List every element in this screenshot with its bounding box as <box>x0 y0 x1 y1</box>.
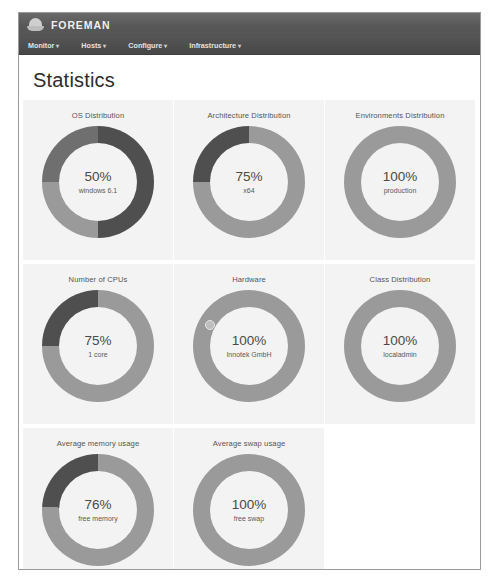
donut-ring: 100% localadmin <box>344 290 456 402</box>
donut-label: 1 core <box>84 351 111 358</box>
main-navbar: Monitor▾ Hosts▾ Configure▾ Infrastructur… <box>19 36 480 55</box>
nav-item-configure[interactable]: Configure▾ <box>128 41 167 50</box>
chart-title: Hardware <box>232 275 266 284</box>
brand-title: FOREMAN <box>51 19 110 31</box>
donut-center: 76% free memory <box>59 471 137 549</box>
chart-card-class-distribution[interactable]: Class Distribution 100% localadmin <box>325 264 476 424</box>
chart-title: Average swap usage <box>213 439 286 448</box>
foreman-app-window: FOREMAN Monitor▾ Hosts▾ Configure▾ Infra… <box>18 12 481 570</box>
donut-ring: 100% free swap <box>193 454 305 566</box>
donut-label: x64 <box>239 187 258 194</box>
brand-bar: FOREMAN <box>19 13 480 36</box>
chart-title: Number of CPUs <box>69 275 128 284</box>
chart-card-hardware[interactable]: Hardware 100% Innotek GmbH <box>174 264 325 424</box>
donut-label: localadmin <box>379 351 420 358</box>
donut-center: 75% 1 core <box>59 307 137 385</box>
donut-ring: 50% windows 6.1 <box>42 126 154 238</box>
chart-grid-empty-slot <box>325 428 476 570</box>
donut-center: 100% localadmin <box>361 307 439 385</box>
chevron-down-icon: ▾ <box>56 43 59 49</box>
statistics-chart-grid: OS Distribution 50% windows 6.1 Architec… <box>19 92 480 570</box>
chart-title: Class Distribution <box>370 275 431 284</box>
nav-item-configure-label: Configure <box>128 41 162 50</box>
nav-item-monitor-label: Monitor <box>28 41 54 50</box>
chart-card-architecture-distribution[interactable]: Architecture Distribution 75% x64 <box>174 100 325 260</box>
chart-title: Architecture Distribution <box>207 111 290 120</box>
chevron-down-icon: ▾ <box>238 43 241 49</box>
chart-card-environments-distribution[interactable]: Environments Distribution 100% productio… <box>325 100 476 260</box>
donut-ring: 100% Innotek GmbH <box>193 290 305 402</box>
chart-card-os-distribution[interactable]: OS Distribution 50% windows 6.1 <box>23 100 174 260</box>
donut-ring: 75% x64 <box>193 126 305 238</box>
page-body: Statistics OS Distribution 50% windows 6… <box>19 55 480 569</box>
donut-chart: 100% Innotek GmbH <box>193 290 305 402</box>
donut-label: free swap <box>230 515 268 522</box>
nav-item-infrastructure[interactable]: Infrastructure▾ <box>189 41 241 50</box>
chart-title: OS Distribution <box>72 111 125 120</box>
donut-percentage: 100% <box>383 334 418 349</box>
hard-hat-icon <box>27 16 44 33</box>
donut-chart: 76% free memory <box>42 454 154 566</box>
chart-card-average-swap-usage[interactable]: Average swap usage 100% free swap <box>174 428 325 570</box>
donut-chart: 100% localadmin <box>344 290 456 402</box>
donut-ring: 100% production <box>344 126 456 238</box>
donut-percentage: 50% <box>84 170 111 185</box>
chart-card-number-of-cpus[interactable]: Number of CPUs 75% 1 core <box>23 264 174 424</box>
donut-center: 100% free swap <box>210 471 288 549</box>
chevron-down-icon: ▾ <box>103 43 106 49</box>
donut-percentage: 100% <box>383 170 418 185</box>
donut-percentage: 75% <box>84 334 111 349</box>
donut-label: windows 6.1 <box>75 187 122 194</box>
donut-center: 100% production <box>361 143 439 221</box>
donut-label: free memory <box>74 515 121 522</box>
donut-chart: 100% free swap <box>193 454 305 566</box>
donut-ring: 76% free memory <box>42 454 154 566</box>
donut-center: 75% x64 <box>210 143 288 221</box>
donut-percentage: 75% <box>235 170 262 185</box>
chart-title: Average memory usage <box>57 439 139 448</box>
donut-percentage: 100% <box>232 334 267 349</box>
donut-percentage: 100% <box>232 498 267 513</box>
donut-center: 50% windows 6.1 <box>59 143 137 221</box>
chart-card-average-memory-usage[interactable]: Average memory usage 76% free memory <box>23 428 174 570</box>
donut-label: Innotek GmbH <box>222 351 275 358</box>
donut-center: 100% Innotek GmbH <box>210 307 288 385</box>
donut-label: production <box>380 187 421 194</box>
donut-chart: 75% x64 <box>193 126 305 238</box>
nav-item-monitor[interactable]: Monitor▾ <box>28 41 59 50</box>
chevron-down-icon: ▾ <box>164 43 167 49</box>
nav-item-hosts-label: Hosts <box>81 41 101 50</box>
nav-item-infrastructure-label: Infrastructure <box>189 41 236 50</box>
donut-chart: 50% windows 6.1 <box>42 126 154 238</box>
page-title: Statistics <box>19 55 480 92</box>
donut-percentage: 76% <box>84 498 111 513</box>
donut-chart: 100% production <box>344 126 456 238</box>
nav-item-hosts[interactable]: Hosts▾ <box>81 41 106 50</box>
donut-chart: 75% 1 core <box>42 290 154 402</box>
chart-title: Environments Distribution <box>355 111 444 120</box>
donut-ring: 75% 1 core <box>42 290 154 402</box>
